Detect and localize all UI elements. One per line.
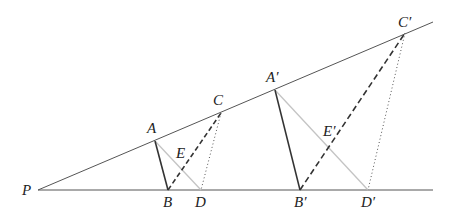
segment-C'D' [368, 33, 405, 190]
segment-CD [201, 113, 221, 190]
label-C-prime: C′ [398, 14, 412, 30]
label-B: B [163, 194, 172, 210]
segment-A'B' [275, 90, 300, 190]
label-P: P [21, 182, 31, 198]
label-D-prime: D′ [360, 194, 376, 210]
label-A-prime: A′ [265, 69, 279, 85]
label-E: E [175, 145, 185, 161]
label-A: A [146, 120, 157, 136]
label-C: C [213, 92, 224, 108]
upper-ray [38, 22, 433, 190]
label-B-prime: B′ [294, 194, 307, 210]
similar-triangles-diagram: P A B C D E A′ B′ C′ D′ E′ [0, 0, 458, 219]
label-D: D [194, 194, 206, 210]
label-E-prime: E′ [322, 123, 336, 139]
segment-A'D' [275, 90, 368, 190]
